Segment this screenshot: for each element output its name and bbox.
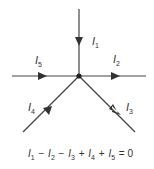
kcl-equation: I1 − I2 − I3 + I4 + I5 = 0 [28, 148, 133, 162]
branch-i5: I5 [12, 54, 79, 80]
junction-node [76, 73, 81, 78]
label-i3: I3 [126, 101, 133, 115]
arrow-down-icon [75, 37, 83, 46]
label-i5: I5 [35, 54, 42, 68]
arrow-right-icon [38, 72, 47, 80]
branch-i2: I2 [79, 53, 146, 80]
branch-i4: I4 [23, 76, 79, 132]
arrow-down-right-icon [109, 104, 121, 115]
arrow-right-icon [111, 72, 120, 80]
label-i2: I2 [113, 53, 120, 67]
branch-i3: I3 [79, 76, 135, 132]
label-i1: I1 [92, 35, 99, 49]
label-i4: I4 [28, 101, 35, 115]
branch-i1: I1 [75, 9, 99, 76]
kcl-junction-diagram: I1 I5 I2 I4 I3 I1 − I2 − I3 + I4 + I5 = … [0, 0, 154, 169]
